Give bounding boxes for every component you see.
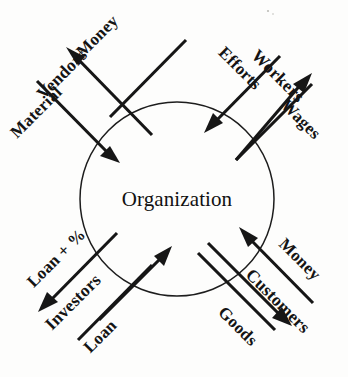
entity-line-vendors [110,40,186,117]
flow-line-vendors-money [76,57,152,135]
flow-label-investors-loan: Loan [80,316,121,357]
flow-vendors-money: Money [66,11,152,135]
flow-line-investors-loan [99,256,163,320]
paper-speck [272,13,274,15]
flow-vendors-material: Material [6,81,120,163]
diagram-canvas: Organization Money Vendors Material Effo… [0,0,348,377]
flow-label-workers-wages: Wages [277,95,325,143]
paper-speck [267,10,269,12]
flow-label-customers-money: Money [275,234,325,284]
flow-investors-loan: Loan [80,246,172,356]
organization-flow-diagram: Organization Money Vendors Material Effo… [0,0,348,377]
center-label: Organization [122,187,233,211]
